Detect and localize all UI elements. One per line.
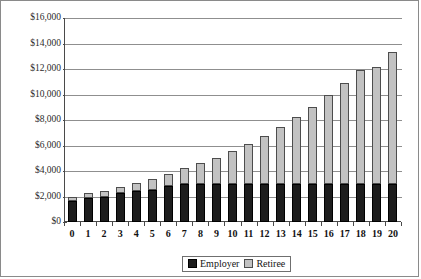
bar-group — [64, 18, 401, 222]
x-axis-tick-label: 12 — [257, 228, 273, 239]
x-axis-tick — [305, 222, 306, 226]
x-axis-tick — [289, 222, 290, 226]
x-axis-tick-label: 7 — [176, 228, 192, 239]
x-axis-tick-label: 11 — [241, 228, 257, 239]
bar-segment-employer — [340, 184, 349, 222]
x-axis-tick-label: 19 — [369, 228, 385, 239]
x-axis-ticks — [64, 222, 401, 227]
x-axis-tick — [257, 222, 258, 226]
bar-segment-employer — [260, 184, 269, 222]
x-axis-tick — [208, 222, 209, 226]
bar-segment-employer — [212, 184, 221, 222]
x-axis-tick-label: 13 — [273, 228, 289, 239]
x-axis-tick-label: 17 — [337, 228, 353, 239]
chart-legend: Employer Retiree — [182, 256, 291, 272]
bar-segment-retiree — [324, 95, 333, 184]
y-axis-tick-label: $10,000 — [3, 90, 61, 99]
bar-segment-employer — [308, 184, 317, 222]
bar-stack — [260, 136, 269, 222]
y-axis-tick-label: $14,000 — [3, 39, 61, 48]
bar-segment-employer — [228, 184, 237, 222]
legend-item-retiree: Retiree — [244, 258, 285, 269]
bar-segment-retiree — [276, 127, 285, 184]
bar-segment-employer — [372, 184, 381, 222]
bar-segment-employer — [132, 191, 141, 222]
x-axis-labels: 01234567891011121314151617181920 — [64, 228, 401, 242]
x-axis-tick-label: 5 — [144, 228, 160, 239]
x-axis-tick — [353, 222, 354, 226]
x-axis-tick-label: 8 — [192, 228, 208, 239]
bar-segment-retiree — [260, 136, 269, 184]
bar-segment-retiree — [180, 168, 189, 184]
x-axis-tick-label: 3 — [112, 228, 128, 239]
y-axis-tick-label: $16,000 — [3, 13, 61, 22]
bar-stack — [372, 67, 381, 222]
bar-stack — [324, 95, 333, 222]
bar-stack — [228, 151, 237, 222]
bar-segment-employer — [356, 184, 365, 222]
bar-segment-employer — [116, 193, 125, 222]
y-axis-tick-label: $2,000 — [3, 192, 61, 201]
x-axis-tick — [144, 222, 145, 226]
x-axis-tick-label: 10 — [224, 228, 240, 239]
x-axis-tick-label: 9 — [208, 228, 224, 239]
bar-stack — [356, 70, 365, 222]
bar-segment-employer — [292, 184, 301, 222]
bar-segment-employer — [324, 184, 333, 222]
bar-stack — [292, 117, 301, 222]
x-axis-tick-label: 6 — [160, 228, 176, 239]
y-axis-tick-label: $8,000 — [3, 115, 61, 124]
bar-stack — [308, 107, 317, 222]
y-axis-tick-label: $0 — [3, 217, 61, 226]
bar-segment-retiree — [340, 83, 349, 184]
x-axis-tick-label: 0 — [64, 228, 80, 239]
bar-segment-retiree — [388, 52, 397, 184]
bar-stack — [244, 144, 253, 222]
bar-stack — [116, 187, 125, 222]
bar-segment-employer — [180, 184, 189, 222]
x-axis-tick — [385, 222, 386, 226]
y-axis-tick-label: $4,000 — [3, 166, 61, 175]
bar-stack — [212, 158, 221, 222]
bar-segment-employer — [196, 184, 205, 222]
bar-stack — [164, 174, 173, 222]
bar-segment-retiree — [292, 117, 301, 184]
bar-stack — [388, 52, 397, 222]
bar-segment-employer — [84, 198, 93, 222]
x-axis-tick — [80, 222, 81, 226]
x-axis-tick-label: 2 — [96, 228, 112, 239]
bar-segment-employer — [244, 184, 253, 222]
bar-segment-retiree — [372, 67, 381, 184]
x-axis-tick — [64, 222, 65, 226]
legend-label-retiree: Retiree — [256, 258, 285, 269]
legend-swatch-retiree-icon — [244, 259, 253, 268]
bar-segment-employer — [164, 186, 173, 222]
x-axis-tick-label: 1 — [80, 228, 96, 239]
x-axis-tick — [112, 222, 113, 226]
bar-segment-retiree — [244, 144, 253, 184]
bar-segment-retiree — [196, 163, 205, 184]
bar-stack — [148, 179, 157, 222]
x-axis-tick — [321, 222, 322, 226]
x-axis-tick-label: 15 — [305, 228, 321, 239]
x-axis-tick — [176, 222, 177, 226]
x-axis-tick-label: 14 — [289, 228, 305, 239]
bar-segment-retiree — [356, 70, 365, 183]
bar-stack — [340, 83, 349, 222]
x-axis-tick — [160, 222, 161, 226]
bar-segment-retiree — [228, 151, 237, 184]
x-axis-tick — [337, 222, 338, 226]
bar-stack — [132, 183, 141, 222]
bar-segment-retiree — [212, 158, 221, 184]
x-axis-tick — [128, 222, 129, 226]
x-axis-tick — [401, 222, 402, 226]
bar-stack — [196, 163, 205, 222]
x-axis-tick — [192, 222, 193, 226]
bar-segment-retiree — [308, 107, 317, 184]
bar-segment-retiree — [148, 179, 157, 190]
bar-segment-employer — [388, 184, 397, 222]
bar-segment-retiree — [164, 174, 173, 185]
x-axis-tick — [369, 222, 370, 226]
x-axis-tick — [241, 222, 242, 226]
x-axis-tick — [273, 222, 274, 226]
